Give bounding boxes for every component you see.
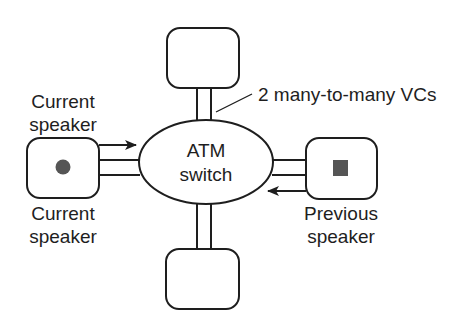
node-right-previous-speaker bbox=[306, 138, 377, 199]
node-top bbox=[167, 28, 239, 88]
node-left-current-speaker bbox=[27, 138, 99, 198]
vc-annotation-label: 2 many-to-many VCs bbox=[258, 84, 436, 105]
previous-speaker-line2: speaker bbox=[307, 226, 375, 247]
atm-switch-label-line2: switch bbox=[180, 164, 233, 185]
current-speaker-bottom-line1: Current bbox=[31, 203, 95, 224]
connector-right bbox=[271, 160, 306, 175]
current-speaker-bottom-line2: speaker bbox=[29, 226, 97, 247]
connector-bottom bbox=[197, 203, 211, 249]
previous-speaker-line1: Previous bbox=[304, 203, 378, 224]
annotation-leader-line bbox=[216, 94, 252, 112]
node-bottom bbox=[166, 249, 239, 309]
current-speaker-top-line1: Current bbox=[31, 91, 95, 112]
connector-top bbox=[197, 88, 211, 123]
speaker-circle-icon bbox=[56, 160, 71, 175]
speaker-square-icon bbox=[333, 160, 348, 176]
atm-switch-diagram: ATM switch 2 many-to-many VCs Current sp… bbox=[0, 0, 473, 324]
current-speaker-top-line2: speaker bbox=[29, 114, 97, 135]
connector-left bbox=[99, 160, 142, 175]
atm-switch: ATM switch bbox=[139, 120, 273, 204]
atm-switch-label-line1: ATM bbox=[187, 140, 226, 161]
